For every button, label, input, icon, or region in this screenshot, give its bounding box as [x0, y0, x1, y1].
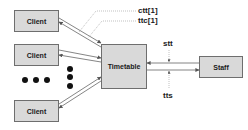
timetable-label: Timetable: [108, 63, 141, 70]
ellipsis-dot: [22, 77, 28, 83]
client-node-2: Client: [14, 44, 59, 66]
label-stt: stt: [163, 40, 173, 48]
staff-node: Staff: [199, 56, 243, 78]
timetable-node: Timetable: [101, 44, 147, 89]
client-label: Client: [27, 108, 46, 115]
client-node-3: Client: [14, 100, 59, 122]
callout-ttc: [88, 21, 136, 38]
client-label: Client: [27, 52, 46, 59]
edge-client1-to-timetable: [59, 18, 101, 43]
edge-timetable-to-client1: [59, 22, 101, 47]
edge-timetable-to-client3: [59, 81, 101, 108]
client-node-1: Client: [14, 10, 59, 32]
ellipsis-dot: [33, 77, 39, 83]
edge-client3-to-timetable: [59, 77, 101, 104]
edge-client2-to-timetable: [59, 50, 101, 58]
ellipsis-dot: [67, 66, 73, 72]
label-tts: tts: [163, 92, 173, 100]
label-ctt: ctt[1]: [138, 7, 158, 15]
ellipsis-dot: [44, 77, 50, 83]
client-label: Client: [27, 18, 46, 25]
label-ttc: ttc[1]: [138, 17, 158, 25]
staff-label: Staff: [213, 64, 229, 71]
ellipsis-dot: [67, 83, 73, 89]
callout-ctt: [79, 11, 136, 32]
edge-timetable-to-client2: [59, 55, 101, 62]
ellipsis-dot: [67, 74, 73, 80]
